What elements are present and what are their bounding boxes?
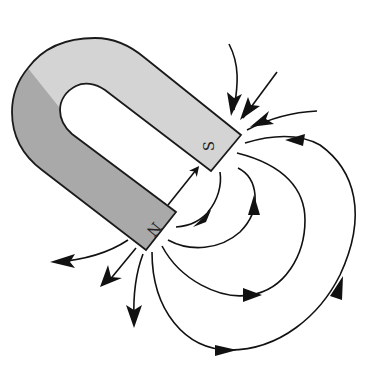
field-line-in-right xyxy=(247,111,317,130)
field-line-straight-gap xyxy=(168,170,196,205)
arrow-loop-1 xyxy=(193,210,211,227)
south-pole-label: S xyxy=(200,141,218,151)
arrow-in-right xyxy=(250,111,274,127)
arrow-loop-3 xyxy=(243,288,262,302)
arrow-loop-4-top xyxy=(285,134,305,146)
arrow-loop-2 xyxy=(248,195,260,215)
arrow-in-top xyxy=(227,92,242,116)
field-line-loop-3 xyxy=(162,153,305,296)
field-line-loop-1b xyxy=(208,172,221,212)
arrow-loop-4-bottom xyxy=(215,345,237,356)
horseshoe-magnet-diagram: S N xyxy=(0,0,386,377)
field-line-out-downleft xyxy=(108,248,136,282)
arrow-in-diag xyxy=(240,97,260,120)
field-line-loop-4 xyxy=(152,136,355,350)
